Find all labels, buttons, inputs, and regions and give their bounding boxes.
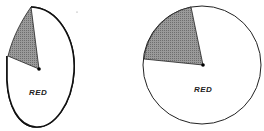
frontal-pie-label: RED bbox=[194, 85, 212, 94]
frontal-pie: RED bbox=[143, 6, 261, 124]
speck bbox=[76, 11, 77, 12]
oblique-pie-label: RED bbox=[29, 88, 47, 97]
oblique-pie-red-sector bbox=[7, 7, 74, 127]
oblique-pie-center-dot bbox=[37, 67, 41, 71]
frontal-pie-center-dot bbox=[201, 63, 205, 67]
pie-diagrams: RED RED bbox=[0, 0, 264, 131]
oblique-pie: RED bbox=[7, 7, 74, 127]
